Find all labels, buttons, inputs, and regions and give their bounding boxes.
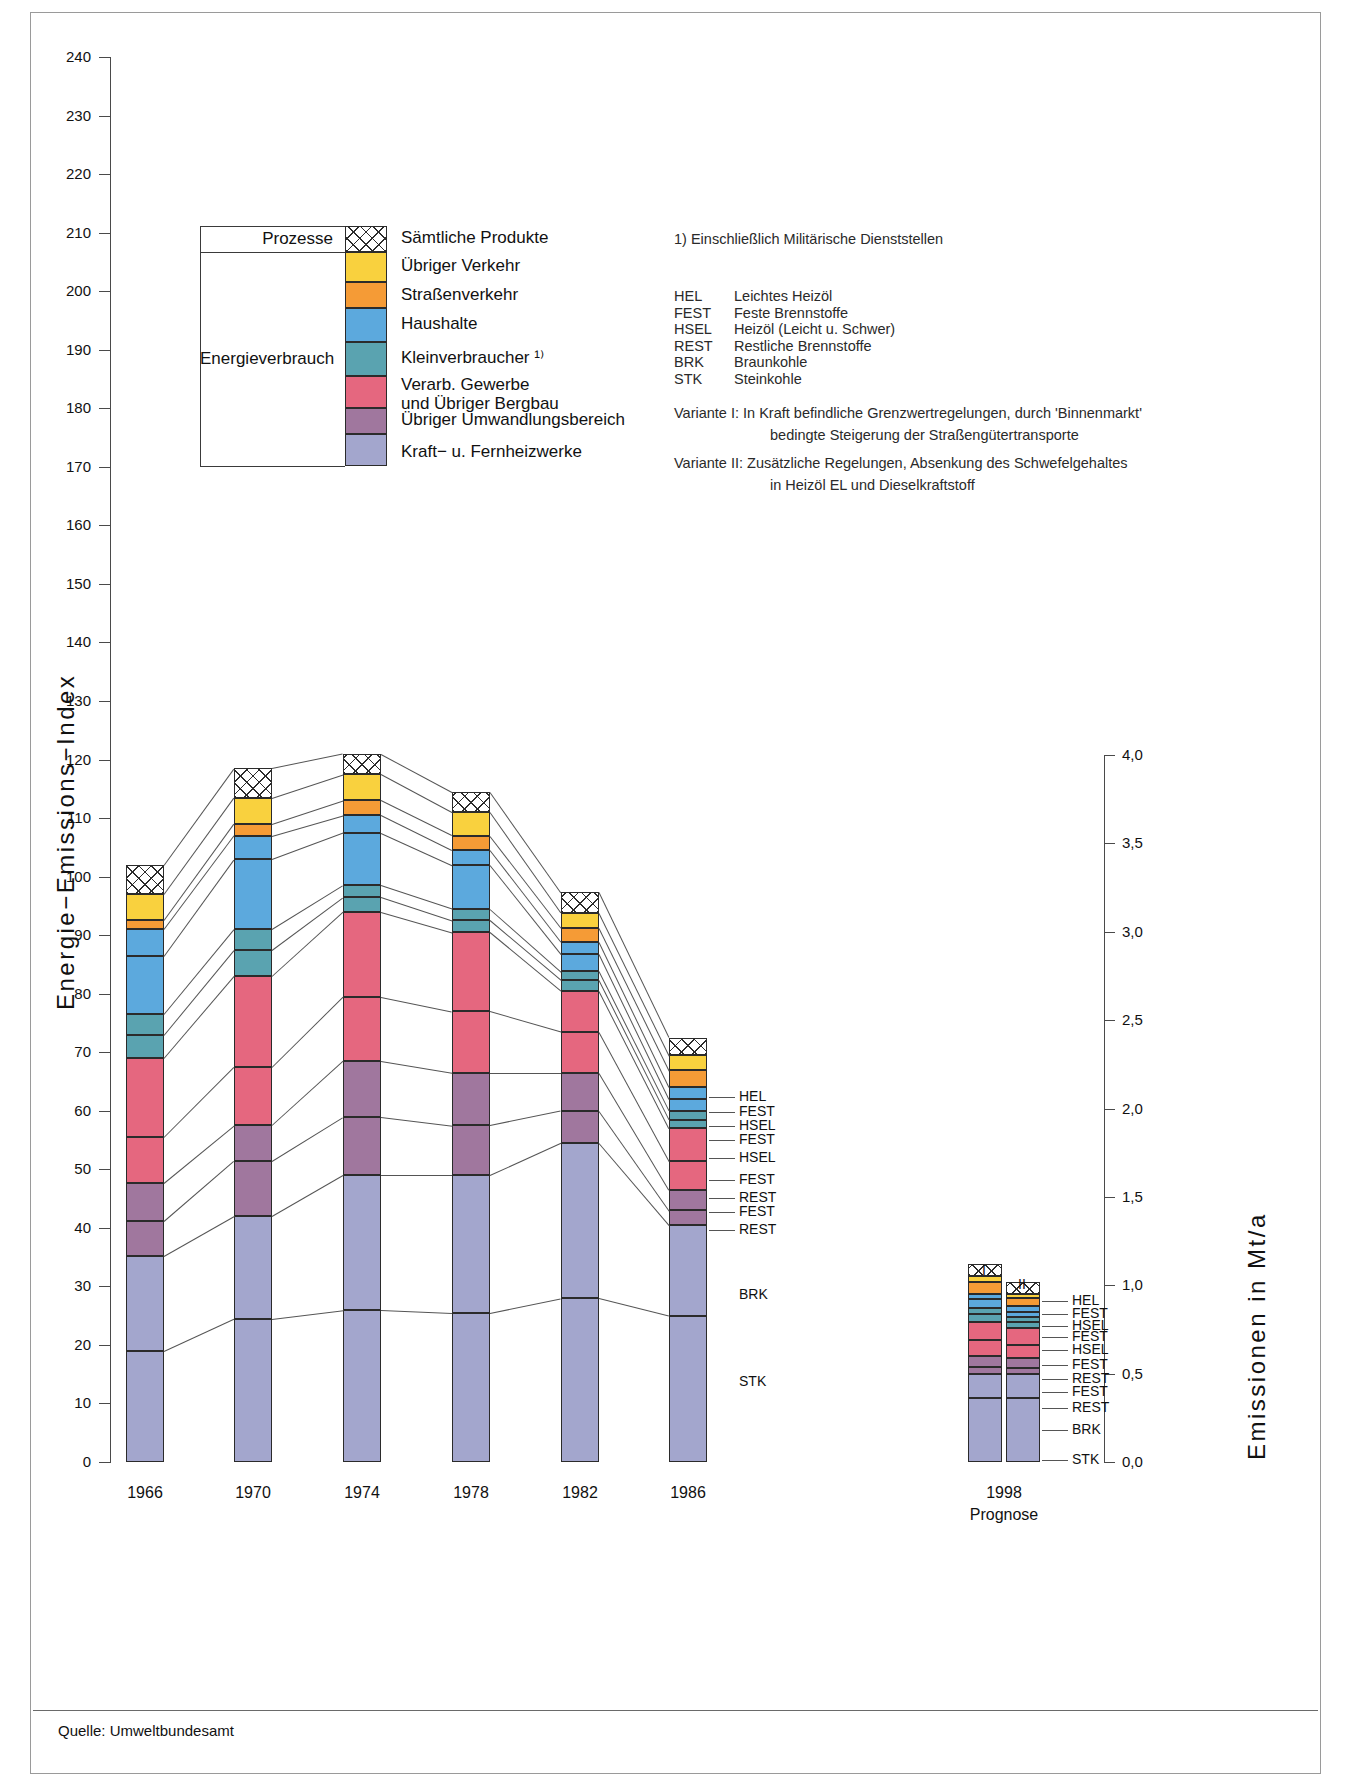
bar-segment[interactable] [669,1087,707,1099]
bar-segment[interactable] [669,1128,707,1160]
bar-segment[interactable] [234,1216,272,1318]
bar-segment[interactable] [126,956,164,1015]
prognose-bar-segment[interactable] [1006,1398,1040,1462]
bar-segment[interactable] [452,1073,490,1126]
bar-segment[interactable] [343,885,381,897]
prognose-bar-segment[interactable] [968,1308,1002,1313]
prognose-bar[interactable] [1006,755,1040,1462]
bar-segment[interactable] [126,1137,164,1183]
prognose-bar-segment[interactable] [968,1356,1002,1367]
prognose-bar-segment[interactable] [1006,1306,1040,1311]
prognose-bar-segment[interactable] [968,1299,1002,1308]
bar-segment[interactable] [561,1032,599,1073]
bar-segment[interactable] [561,942,599,954]
bar-segment[interactable] [561,991,599,1032]
bar-segment[interactable] [126,1221,164,1256]
bar-segment[interactable] [561,913,599,928]
bar-segment[interactable] [669,1111,707,1120]
bar-segment[interactable] [669,1161,707,1190]
bar-segment[interactable] [561,971,599,980]
bar-segment[interactable] [234,1125,272,1160]
bar-segment[interactable] [452,909,490,921]
bar-column[interactable] [343,57,381,1462]
prognose-bar-segment[interactable] [1006,1298,1040,1307]
bar-segment[interactable] [452,792,490,812]
bar-segment[interactable] [343,1117,381,1176]
prognose-bar-segment[interactable] [968,1282,1002,1294]
bar-segment[interactable] [561,892,599,912]
bar-column[interactable] [561,57,599,1462]
bar-segment[interactable] [126,865,164,894]
bar-column[interactable] [669,57,707,1462]
bar-segment[interactable] [234,1161,272,1217]
bar-segment[interactable] [669,1120,707,1129]
bar-segment[interactable] [669,1190,707,1210]
bar-segment[interactable] [343,912,381,997]
prognose-bar-segment[interactable] [1006,1317,1040,1322]
bar-segment[interactable] [234,768,272,797]
prognose-bar[interactable] [968,755,1002,1462]
bar-segment[interactable] [561,1111,599,1143]
bar-segment[interactable] [452,920,490,932]
bar-segment[interactable] [343,815,381,833]
bar-segment[interactable] [561,1143,599,1298]
bar-segment[interactable] [126,1058,164,1137]
prognose-bar-segment[interactable] [1006,1322,1040,1327]
bar-segment[interactable] [343,754,381,774]
bar-segment[interactable] [234,836,272,859]
prognose-bar-segment[interactable] [1006,1358,1040,1369]
prognose-bar-segment[interactable] [968,1398,1002,1462]
bar-segment[interactable] [452,1125,490,1175]
bar-segment[interactable] [343,1061,381,1117]
bar-segment[interactable] [126,920,164,929]
bar-segment[interactable] [126,929,164,955]
bar-segment[interactable] [452,836,490,851]
bar-segment[interactable] [343,897,381,912]
bar-segment[interactable] [452,1011,490,1072]
bar-segment[interactable] [343,833,381,886]
bar-segment[interactable] [452,1313,490,1462]
prognose-bar-segment[interactable] [968,1367,1002,1374]
bar-segment[interactable] [126,1256,164,1351]
prognose-bar-segment[interactable] [968,1314,1002,1323]
prognose-bar-segment[interactable] [968,1374,1002,1399]
prognose-bar-segment[interactable] [968,1322,1002,1340]
bar-segment[interactable] [126,1014,164,1034]
bar-segment[interactable] [343,1175,381,1310]
bar-segment[interactable] [234,859,272,929]
prognose-bar-segment[interactable] [1006,1368,1040,1373]
bar-segment[interactable] [234,950,272,976]
prognose-bar-segment[interactable] [1006,1374,1040,1399]
bar-segment[interactable] [669,1038,707,1056]
bar-segment[interactable] [669,1316,707,1462]
bar-segment[interactable] [234,976,272,1067]
bar-segment[interactable] [452,1175,490,1313]
prognose-bar-segment[interactable] [1006,1328,1040,1346]
bar-segment[interactable] [452,865,490,909]
bar-segment[interactable] [234,1067,272,1126]
bar-segment[interactable] [343,997,381,1061]
bar-segment[interactable] [669,1210,707,1225]
bar-segment[interactable] [452,812,490,835]
prognose-bar-segment[interactable] [1006,1312,1040,1317]
bar-segment[interactable] [343,774,381,800]
prognose-bar-segment[interactable] [968,1340,1002,1356]
prognose-bar-segment[interactable] [1006,1294,1040,1298]
prognose-bar-segment[interactable] [968,1294,1002,1299]
bar-segment[interactable] [234,929,272,949]
prognose-bar-segment[interactable] [1006,1345,1040,1357]
bar-segment[interactable] [126,1183,164,1221]
bar-segment[interactable] [561,928,599,943]
bar-segment[interactable] [669,1099,707,1111]
bar-segment[interactable] [561,980,599,991]
bar-segment[interactable] [452,932,490,1011]
bar-segment[interactable] [561,1298,599,1462]
bar-segment[interactable] [126,1351,164,1462]
bar-segment[interactable] [669,1225,707,1316]
bar-segment[interactable] [669,1055,707,1070]
bar-segment[interactable] [234,1319,272,1462]
bar-segment[interactable] [234,798,272,824]
bar-column[interactable] [126,57,164,1462]
bar-column[interactable] [234,57,272,1462]
bar-segment[interactable] [669,1070,707,1088]
